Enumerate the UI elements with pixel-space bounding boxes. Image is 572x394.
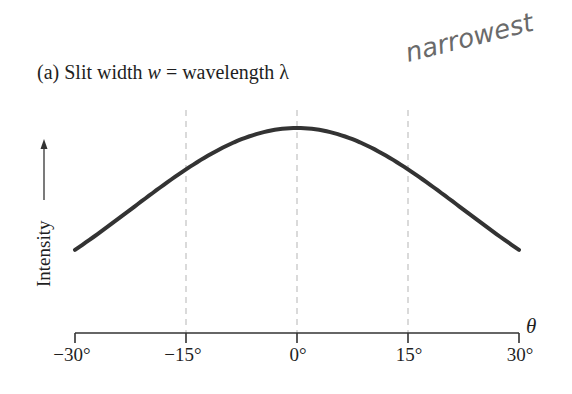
x-tick-labels: −30° −15° 0° 15° 30° <box>53 344 533 365</box>
diffraction-chart: (a) Slit width w = wavelength λ narrowes… <box>0 0 572 394</box>
x-tick-label: −30° <box>53 344 90 365</box>
x-tick-label: 15° <box>396 344 423 365</box>
x-axis-label: θ <box>526 314 536 338</box>
x-tick-label: 0° <box>289 344 306 365</box>
x-axis <box>75 333 519 343</box>
x-tick-label: −15° <box>164 344 201 365</box>
x-tick-label: 30° <box>507 344 534 365</box>
y-axis-label: Intensity <box>33 220 54 287</box>
arrow-up-icon <box>41 139 48 149</box>
gridlines <box>186 110 408 333</box>
y-axis-label-group: Intensity <box>33 139 54 287</box>
handwritten-annotation: narrowest <box>402 7 537 68</box>
chart-title: (a) Slit width w = wavelength λ <box>37 61 289 84</box>
